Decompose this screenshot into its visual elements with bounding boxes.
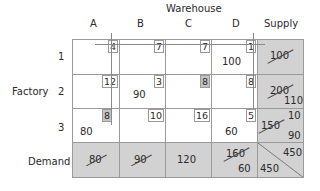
demand-d-remaining: 60 xyxy=(238,163,251,175)
demand-d-original: 160 xyxy=(226,148,245,160)
factory-label: Factory xyxy=(12,86,49,98)
column-header-d: D xyxy=(232,18,240,30)
cost-2-d: 8 xyxy=(246,75,256,88)
supply-3-remaining-2: 90 xyxy=(288,130,301,142)
demand-c-original: 120 xyxy=(177,154,196,166)
cost-1-a: 4 xyxy=(108,40,118,53)
cell-2-c[interactable]: 8 xyxy=(166,75,212,109)
demand-label: Demand xyxy=(28,156,70,168)
cost-1-b: 7 xyxy=(154,40,164,53)
supply-3-original: 150 xyxy=(261,120,280,132)
cost-2-b: 3 xyxy=(154,75,164,88)
transportation-table: 4 7 7 1 100 100 12 3 90 8 8 200 110 8 80… xyxy=(72,39,304,178)
demand-a-original: 80 xyxy=(89,154,102,166)
cell-2-a[interactable]: 12 xyxy=(73,75,120,109)
row-label-1: 1 xyxy=(58,51,64,63)
demand-b-original: 90 xyxy=(134,154,147,166)
supply-cell-2: 200 110 xyxy=(258,75,304,109)
allocation-3-a: 80 xyxy=(80,126,93,138)
allocation-1-d: 100 xyxy=(222,56,241,68)
cell-2-d[interactable]: 8 xyxy=(212,75,258,109)
path-line-vertical-d xyxy=(253,33,254,109)
cost-3-d: 5 xyxy=(246,109,256,122)
totals-cell: 450 450 xyxy=(258,143,304,178)
cell-2-b[interactable]: 3 90 xyxy=(120,75,166,109)
column-header-a: A xyxy=(90,18,97,30)
cost-3-c: 16 xyxy=(194,109,210,122)
allocation-2-b: 90 xyxy=(133,89,146,101)
path-line-horizontal-row1 xyxy=(95,44,265,45)
cell-1-d[interactable]: 1 100 xyxy=(212,40,258,75)
warehouse-title: Warehouse xyxy=(166,3,222,15)
supply-cell-3: 10 150 90 xyxy=(258,109,304,143)
allocation-3-d: 60 xyxy=(225,126,238,138)
cell-1-a[interactable]: 4 xyxy=(73,40,120,75)
path-line-vertical-a xyxy=(111,33,112,125)
supply-3-remaining-1: 10 xyxy=(288,110,301,122)
demand-cell-d: 160 60 xyxy=(212,143,258,178)
demand-cell-b: 90 xyxy=(120,143,166,178)
supply-cell-1: 100 xyxy=(258,40,304,75)
cell-1-c[interactable]: 7 xyxy=(166,40,212,75)
cost-2-c: 8 xyxy=(200,75,210,88)
supply-total: 450 xyxy=(283,147,302,159)
column-header-b: B xyxy=(137,18,144,30)
cell-3-c[interactable]: 16 xyxy=(166,109,212,143)
cell-3-a[interactable]: 8 80 xyxy=(73,109,120,143)
cell-3-b[interactable]: 10 xyxy=(120,109,166,143)
demand-total: 450 xyxy=(260,163,279,175)
row-label-3: 3 xyxy=(58,122,64,134)
cost-2-a: 12 xyxy=(102,75,118,88)
cell-1-b[interactable]: 7 xyxy=(120,40,166,75)
demand-cell-c: 120 xyxy=(166,143,212,178)
row-label-2: 2 xyxy=(58,86,64,98)
supply-header: Supply xyxy=(264,18,298,30)
supply-2-remaining: 110 xyxy=(284,95,303,107)
demand-cell-a: 80 xyxy=(73,143,120,178)
cost-1-d: 1 xyxy=(246,40,256,53)
cell-3-d[interactable]: 5 60 xyxy=(212,109,258,143)
cost-3-b: 10 xyxy=(148,109,164,122)
column-header-c: C xyxy=(185,18,192,30)
supply-1-original: 100 xyxy=(270,50,289,62)
cost-1-c: 7 xyxy=(200,40,210,53)
